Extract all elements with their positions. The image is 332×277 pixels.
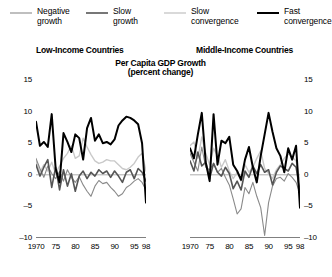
legend-item-slow-growth: Slow growth <box>84 6 162 26</box>
legend-line-icon <box>164 11 186 15</box>
x-axis-tick-label: 80 <box>71 242 79 251</box>
x-axis-tick-label: 1970 <box>28 242 45 251</box>
y-axis-tick-label: 0 <box>28 170 32 179</box>
plot-middle-income-countries: 151050–5–101970758085909598 <box>190 80 300 238</box>
x-axis-tick-label: 95 <box>130 242 138 251</box>
plot-low-income-countries: 151050–5–101970758085909598 <box>36 80 146 238</box>
y-axis-tick-label: –5 <box>304 201 313 210</box>
x-axis-tick-label: 80 <box>225 242 233 251</box>
legend-label: Slow growth <box>113 6 138 26</box>
legend-line-icon <box>257 11 279 15</box>
y-axis-tick-label: –10 <box>19 233 32 242</box>
chart-legend: Negative growth Slow growth Slow converg… <box>0 6 321 36</box>
y-axis-tick-label: –10 <box>304 233 317 242</box>
legend-line-icon <box>86 11 108 15</box>
legend-item-slow-convergence: Slow convergence <box>162 6 255 26</box>
y-axis-tick-label: 10 <box>304 107 313 116</box>
legend-label: Negative growth <box>37 6 70 26</box>
y-axis-tick-label: 0 <box>304 170 308 179</box>
plot-area-left <box>36 80 146 238</box>
x-axis-tick-label: 85 <box>91 242 99 251</box>
x-axis-tick-label: 85 <box>245 242 253 251</box>
panel-title-low-income: Low-Income Countries <box>36 45 124 55</box>
series-line <box>36 114 146 202</box>
legend-label: Slow convergence <box>191 6 239 26</box>
y-axis-tick-label: 10 <box>24 107 33 116</box>
x-axis-tick-label: 1970 <box>182 242 199 251</box>
series-line <box>36 138 146 173</box>
x-axis-tick-label: 98 <box>296 242 304 251</box>
y-axis-tick-label: 15 <box>24 75 33 84</box>
x-axis-tick-label: 98 <box>142 242 150 251</box>
panel-title-middle-income: Middle-Income Countries <box>196 45 293 55</box>
y-axis-tick-label: –5 <box>24 201 33 210</box>
y-axis-tick-label: 15 <box>304 75 313 84</box>
legend-item-fast-convergence: Fast convergence <box>255 6 321 26</box>
legend-item-negative-growth: Negative growth <box>0 6 84 26</box>
x-axis-tick-label: 75 <box>205 242 213 251</box>
x-axis-tick-label: 90 <box>110 242 118 251</box>
plot-area-right <box>190 80 300 238</box>
legend-label: Fast convergence <box>284 6 332 26</box>
y-axis-tick-label: 5 <box>28 138 32 147</box>
x-axis-tick-label: 75 <box>51 242 59 251</box>
x-axis-tick-label: 90 <box>264 242 272 251</box>
chart-subtitle: (percent change) <box>0 67 321 77</box>
x-axis-tick-label: 95 <box>284 242 292 251</box>
legend-line-icon <box>10 11 32 15</box>
y-axis-tick-label: 5 <box>304 138 308 147</box>
